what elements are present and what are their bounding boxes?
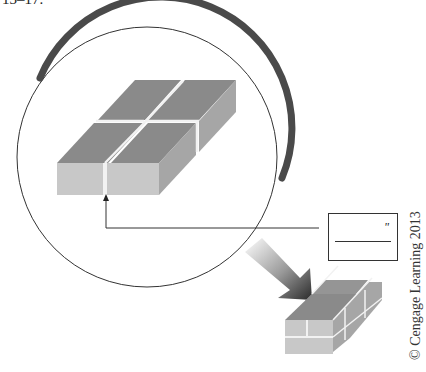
copyright-credit: © Cengage Learning 2013 xyxy=(408,211,424,360)
enlarged-bricks xyxy=(57,80,236,195)
leader-arrow xyxy=(103,194,319,228)
inch-mark: " xyxy=(384,220,389,235)
magnify-arrow xyxy=(245,238,312,300)
answer-blank-line xyxy=(335,241,391,242)
magnified-brick-joint-diagram xyxy=(0,0,426,372)
answer-box[interactable]: " xyxy=(328,213,398,261)
